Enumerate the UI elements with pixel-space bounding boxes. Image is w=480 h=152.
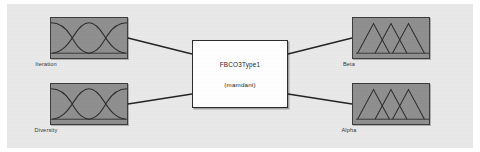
output-block-beta[interactable] xyxy=(352,17,430,59)
input-block-iteration[interactable] xyxy=(50,17,128,59)
input-label-iteration: Iteration xyxy=(0,61,106,67)
fis-system-name: FBCO3Type1 xyxy=(220,61,261,68)
wire-system-to-Beta xyxy=(288,38,352,54)
fis-diagram-canvas: Iteration Diversity FBCO3Type1 (mamdani) xyxy=(7,4,473,148)
output-label-beta: Beta xyxy=(289,61,409,67)
output-block-alpha[interactable] xyxy=(352,83,430,125)
input-label-diversity: Diversity xyxy=(0,127,106,133)
gaussian-mf-plot-iteration xyxy=(51,18,127,58)
input-block-diversity[interactable] xyxy=(50,83,128,125)
wire-Iteration-to-system xyxy=(128,38,192,54)
fis-system-type: (mamdani) xyxy=(224,81,255,88)
wire-Diversity-to-system xyxy=(128,94,192,104)
wire-system-to-Alpha xyxy=(288,94,352,104)
triangular-mf-plot-beta xyxy=(353,18,429,58)
triangular-mf-plot-alpha xyxy=(353,84,429,124)
gaussian-mf-plot-diversity xyxy=(51,84,127,124)
fis-system-block[interactable]: FBCO3Type1 (mamdani) xyxy=(192,40,288,108)
output-label-alpha: Alpha xyxy=(289,127,409,133)
fis-editor-screenshot: Iteration Diversity FBCO3Type1 (mamdani) xyxy=(0,0,480,152)
